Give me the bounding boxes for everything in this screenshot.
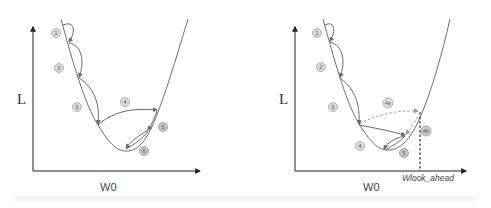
svg-text:4b: 4b	[423, 128, 429, 134]
y-axis-label: L	[279, 91, 288, 107]
step-badge-4b: 4b	[421, 126, 431, 136]
step-badge-6: 6	[140, 147, 149, 156]
step-badge-1: 1	[52, 29, 61, 38]
step-badge-5: 5	[159, 123, 168, 132]
loss-curve	[61, 19, 188, 151]
svg-text:4a: 4a	[385, 100, 391, 106]
step-badge-5: 5	[400, 149, 409, 158]
step-badge-2: 2	[317, 63, 326, 72]
y-axis-label: L	[17, 91, 26, 107]
step-badge-3: 3	[73, 103, 82, 112]
right-panel: L W0 Wlook_ahead	[279, 19, 466, 193]
step-arrows	[63, 24, 157, 149]
left-panel: L W0 1 2	[17, 19, 200, 193]
step-badge-4: 4	[356, 142, 365, 151]
step-arrows	[325, 24, 405, 150]
x-axis-label: W0	[100, 181, 117, 193]
lookahead-arrows	[360, 111, 420, 134]
lookahead-label: Wlook_ahead	[402, 173, 454, 183]
step-badge-4: 4	[121, 98, 130, 107]
step-badge-2: 2	[55, 64, 64, 73]
figure-bottom-shadow	[14, 196, 478, 202]
step-badge-4a: 4a	[383, 98, 393, 108]
step-badge-3: 3	[329, 103, 338, 112]
x-axis-label: W0	[363, 181, 380, 193]
step-badge-1: 1	[313, 29, 322, 38]
momentum-comparison-figure: L W0 1 2	[0, 0, 491, 208]
